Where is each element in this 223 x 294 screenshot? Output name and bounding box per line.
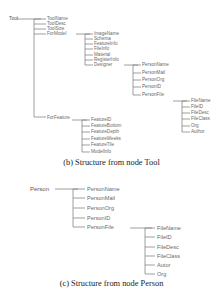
node-filedesc: FileDesc	[157, 244, 179, 250]
node-personname: PersonName	[87, 186, 120, 192]
node-personid: PersonID	[87, 215, 110, 221]
node-personorg: PersonOrg	[87, 205, 114, 211]
node-personmail: PersonMail	[87, 195, 115, 201]
node-filename: FileName	[157, 225, 181, 231]
node-fileclass: FileClass	[157, 253, 180, 259]
node-personfile: PersonFile	[87, 224, 114, 230]
node-autor: Autor	[157, 262, 170, 268]
node-person: Person	[30, 186, 49, 192]
tree-connectors-c	[0, 0, 223, 294]
node-org: Org	[157, 271, 166, 277]
node-fileid: FileID	[157, 234, 172, 240]
caption-c: (c) Structure from node Person	[0, 279, 223, 288]
